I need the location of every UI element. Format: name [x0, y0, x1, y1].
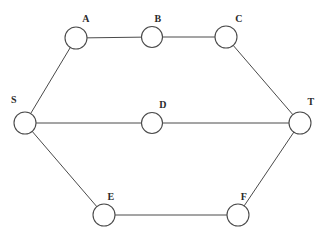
- graph-node-b[interactable]: [142, 27, 163, 48]
- graph-node-t[interactable]: [289, 112, 311, 134]
- graph-node-label-t: T: [308, 97, 315, 107]
- graph-edge-c-t: [233, 45, 293, 115]
- graph-node-label-e: E: [108, 192, 115, 202]
- nodes-layer: [14, 26, 311, 226]
- graph-edge-a-b: [86, 37, 142, 38]
- graph-node-e[interactable]: [93, 204, 115, 226]
- graph-edge-f-t: [244, 132, 294, 207]
- graph-node-label-s: S: [11, 95, 17, 105]
- graph-node-label-b: B: [155, 14, 162, 24]
- graph-node-label-c: C: [235, 14, 242, 24]
- graph-node-d[interactable]: [142, 113, 163, 134]
- graph-node-a[interactable]: [65, 27, 87, 49]
- graph-node-label-f: F: [241, 192, 247, 202]
- graph-svg: [0, 0, 326, 242]
- diagram-canvas: SABCTDEF: [0, 0, 326, 242]
- graph-node-label-a: A: [82, 14, 89, 24]
- graph-node-c[interactable]: [215, 26, 237, 48]
- graph-node-f[interactable]: [227, 204, 249, 226]
- graph-edge-s-e: [32, 131, 97, 207]
- graph-node-s[interactable]: [14, 112, 36, 134]
- graph-edge-s-a: [30, 47, 70, 114]
- graph-node-label-d: D: [159, 100, 166, 110]
